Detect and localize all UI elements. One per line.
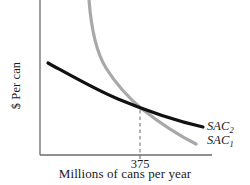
curve-label-sac1-subscript: 1 <box>230 139 234 149</box>
curve-label-sac1-text: SAC <box>207 133 230 147</box>
curve-label-sac2-text: SAC <box>207 119 230 133</box>
curve-label-sac1: SAC1 <box>207 133 234 148</box>
curve-label-sac2: SAC2 <box>207 119 234 134</box>
y-axis-label: $ Per can <box>9 36 24 136</box>
cost-curve-figure: $ Per can 375 Millions of cans per year … <box>0 0 250 185</box>
x-axis-label: Millions of cans per year <box>0 166 250 182</box>
